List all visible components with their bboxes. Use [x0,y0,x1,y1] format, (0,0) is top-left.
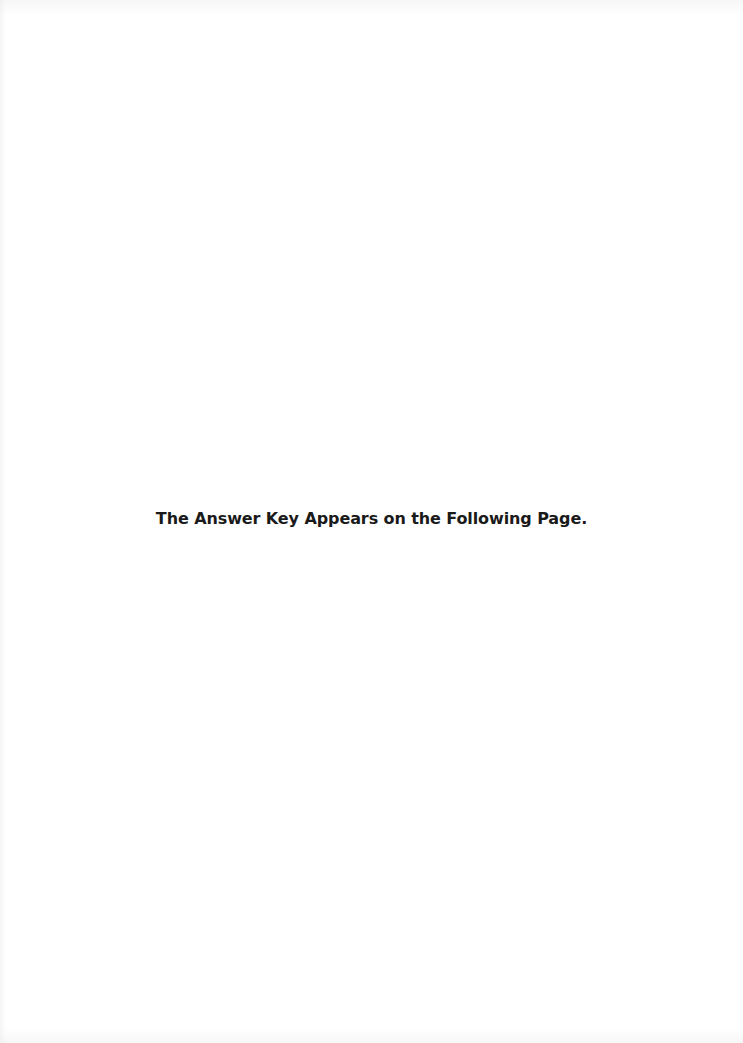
answer-key-notice: The Answer Key Appears on the Following … [0,508,743,530]
scan-edge-bottom [0,1029,743,1043]
document-page: The Answer Key Appears on the Following … [0,0,743,1043]
scan-edge-top [0,0,743,14]
